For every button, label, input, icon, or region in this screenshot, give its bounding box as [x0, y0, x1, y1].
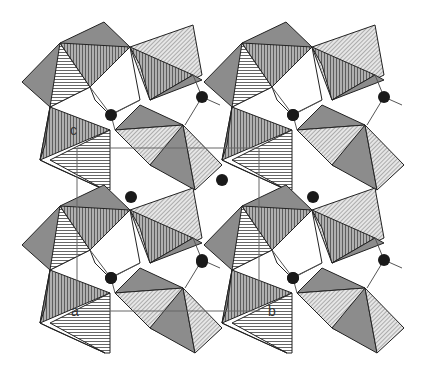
atom [216, 174, 228, 186]
atom [378, 254, 390, 266]
atom [105, 109, 117, 121]
atom [196, 256, 208, 268]
axis-label-b: b [268, 304, 276, 318]
polyhedra-motif [204, 22, 404, 190]
polyhedra-motif [22, 22, 222, 190]
polyhedra-motif [22, 185, 222, 353]
atom [307, 191, 319, 203]
polyhedra-motif [204, 185, 404, 353]
axis-label-c: c [70, 123, 77, 137]
atom [287, 272, 299, 284]
atom [105, 272, 117, 284]
crystal-structure-figure: c a b [0, 0, 428, 379]
atom [287, 109, 299, 121]
polyhedra-layer [22, 22, 404, 353]
axis-label-a: a [71, 304, 79, 318]
atom [378, 91, 390, 103]
atom [125, 191, 137, 203]
atom [196, 91, 208, 103]
polyhedra-diagram [0, 0, 428, 379]
